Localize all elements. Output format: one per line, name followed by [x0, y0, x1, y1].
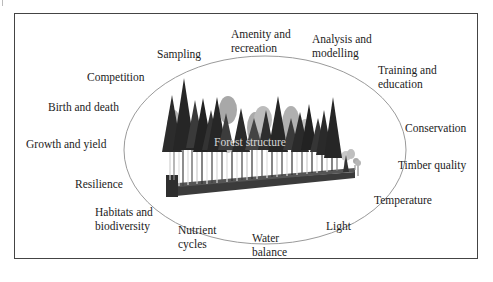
- label-timber-quality: Timber quality: [398, 158, 466, 172]
- ground-icon: [166, 168, 355, 197]
- label-birth-death: Birth and death: [48, 100, 119, 114]
- label-competition: Competition: [87, 70, 145, 84]
- conifer-trees: [162, 78, 349, 172]
- label-growth-yield: Growth and yield: [26, 137, 106, 151]
- label-habitats-biodiversity: Habitats and biodiversity: [95, 205, 153, 233]
- label-conservation: Conservation: [405, 121, 466, 135]
- label-nutrient-cycles: Nutrient cycles: [178, 223, 216, 251]
- label-resilience: Resilience: [75, 177, 123, 191]
- sapling-icon: [355, 160, 361, 176]
- label-water-balance: Water balance: [252, 231, 287, 259]
- label-sampling: Sampling: [157, 47, 201, 61]
- center-label-forest-structure: Forest structure: [214, 135, 286, 149]
- label-temperature: Temperature: [374, 193, 432, 207]
- label-amenity-recreation: Amenity and recreation: [231, 27, 291, 55]
- label-training-education: Training and education: [378, 63, 437, 91]
- label-analysis-modelling: Analysis and modelling: [312, 32, 372, 60]
- label-light: Light: [326, 219, 351, 233]
